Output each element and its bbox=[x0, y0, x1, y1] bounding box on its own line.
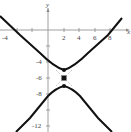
vertex-point bbox=[62, 68, 66, 72]
x-tick-label: 4 bbox=[77, 34, 81, 42]
y-axis-label: y bbox=[45, 1, 50, 9]
y-tick-label: -8 bbox=[36, 90, 42, 98]
x-tick-label: 2 bbox=[62, 34, 66, 42]
x-tick-label: 6 bbox=[93, 34, 97, 42]
x-tick-label: -4 bbox=[2, 34, 8, 42]
upper-branch bbox=[0, 16, 122, 70]
x-axis-label: x bbox=[126, 28, 131, 36]
lower-branch bbox=[16, 86, 112, 132]
y-tick-label: -12 bbox=[32, 122, 42, 130]
hyperbola-plot: -4 2 4 6 8 x y -4 -6 -8 -12 bbox=[0, 0, 131, 132]
vertex-point bbox=[62, 84, 66, 88]
center-point bbox=[62, 76, 67, 81]
y-tick-label: -4 bbox=[36, 58, 42, 66]
y-tick-label: -6 bbox=[36, 74, 42, 82]
